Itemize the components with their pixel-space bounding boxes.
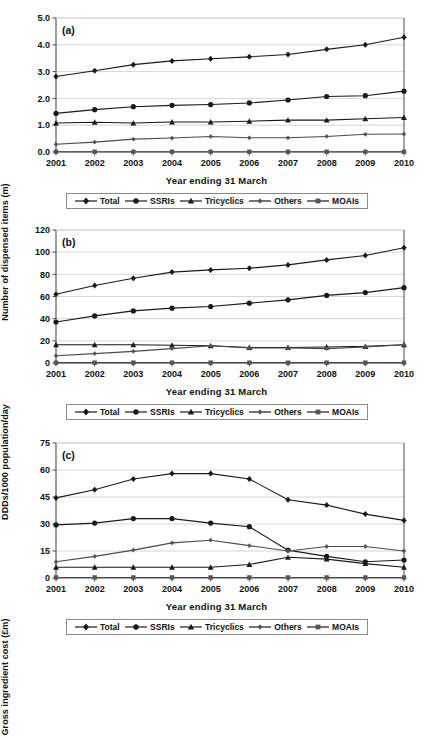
svg-text:20: 20 [40,336,50,346]
legend-item-ssris[interactable]: SSRIs [125,196,175,206]
x-axis-title-c: Year ending 31 March [0,601,433,612]
svg-text:120: 120 [35,225,50,235]
svg-text:2007: 2007 [278,369,298,379]
svg-text:2003: 2003 [123,369,143,379]
svg-text:40: 40 [40,314,50,324]
legend-label-total: Total [100,407,120,417]
x-axis-title-b: Year ending 31 March [0,386,433,397]
circle-icon [125,196,147,206]
small-diamond-icon [249,407,271,417]
svg-text:1.0: 1.0 [37,120,50,130]
y-axis-label-c: Gross ingredient cost (£m) [0,597,10,740]
legend-item-moais[interactable]: MOAIs [307,622,359,632]
svg-text:2009: 2009 [355,369,375,379]
svg-text:4.0: 4.0 [37,40,50,50]
legend-item-others[interactable]: Others [249,196,301,206]
legend-label-others: Others [274,407,301,417]
svg-text:2002: 2002 [85,158,105,168]
small-diamond-icon [249,196,271,206]
legend-item-ssris[interactable]: SSRIs [125,622,175,632]
svg-text:2001: 2001 [46,369,66,379]
svg-text:45: 45 [40,492,50,502]
square-icon [307,196,329,206]
legend-item-total[interactable]: Total [75,196,120,206]
svg-text:2003: 2003 [123,158,143,168]
panel-a: Number of dispensed items (m) 0.01.02.03… [0,0,433,214]
legend-c: Total SSRIs Tricyclics Others MOAIs [66,619,368,635]
legend-label-ssris: SSRIs [150,407,175,417]
svg-text:2010: 2010 [394,584,414,594]
svg-text:0: 0 [45,358,50,368]
legend-a: Total SSRIs Tricyclics Others MOAIs [66,193,368,209]
svg-text:2010: 2010 [394,369,414,379]
legend-label-others: Others [274,196,301,206]
svg-text:2001: 2001 [46,584,66,594]
svg-text:0.0: 0.0 [37,147,50,157]
square-icon [307,622,329,632]
svg-text:2004: 2004 [162,158,182,168]
legend-label-moais: MOAIs [332,622,359,632]
legend-item-others[interactable]: Others [249,622,301,632]
legend-b: Total SSRIs Tricyclics Others MOAIs [66,404,368,420]
circle-icon [125,622,147,632]
legend-label-others: Others [274,622,301,632]
svg-text:100: 100 [35,247,50,257]
diamond-icon [75,622,97,632]
svg-text:2004: 2004 [162,369,182,379]
triangle-icon [180,622,202,632]
svg-text:2009: 2009 [355,158,375,168]
svg-text:2007: 2007 [278,158,298,168]
svg-text:0: 0 [45,573,50,583]
svg-text:2006: 2006 [239,158,259,168]
svg-text:2006: 2006 [239,369,259,379]
svg-text:2008: 2008 [317,158,337,168]
svg-text:2002: 2002 [85,584,105,594]
panel-tag-c: (c) [62,449,75,461]
svg-text:2001: 2001 [46,158,66,168]
svg-text:15: 15 [40,546,50,556]
svg-text:2008: 2008 [317,369,337,379]
legend-label-total: Total [100,196,120,206]
svg-text:2.0: 2.0 [37,94,50,104]
triangle-icon [180,407,202,417]
legend-item-total[interactable]: Total [75,622,120,632]
legend-item-total[interactable]: Total [75,407,120,417]
circle-icon [125,407,147,417]
svg-text:60: 60 [40,292,50,302]
legend-label-ssris: SSRIs [150,622,175,632]
panel-tag-a: (a) [62,24,75,36]
triangle-icon [180,196,202,206]
svg-text:75: 75 [40,438,50,448]
svg-text:2007: 2007 [278,584,298,594]
legend-item-tricyclics[interactable]: Tricyclics [180,622,244,632]
legend-label-total: Total [100,622,120,632]
panel-b: DDDs/1000 population/day 020406080100120… [0,214,433,425]
diamond-icon [75,407,97,417]
legend-label-tricyclics: Tricyclics [205,622,244,632]
panel-c: Gross ingredient cost (£m) 0153045607520… [0,425,433,650]
svg-text:2010: 2010 [394,158,414,168]
diamond-icon [75,196,97,206]
svg-text:3.0: 3.0 [37,67,50,77]
legend-item-ssris[interactable]: SSRIs [125,407,175,417]
svg-text:2004: 2004 [162,584,182,594]
svg-text:2006: 2006 [239,584,259,594]
legend-item-moais[interactable]: MOAIs [307,196,359,206]
small-diamond-icon [249,622,271,632]
legend-label-tricyclics: Tricyclics [205,196,244,206]
x-axis-title-a: Year ending 31 March [0,175,433,186]
svg-text:5.0: 5.0 [37,13,50,23]
svg-text:60: 60 [40,465,50,475]
svg-text:80: 80 [40,270,50,280]
legend-item-moais[interactable]: MOAIs [307,407,359,417]
legend-item-tricyclics[interactable]: Tricyclics [180,407,244,417]
svg-text:2005: 2005 [201,369,221,379]
svg-text:2003: 2003 [123,584,143,594]
legend-item-others[interactable]: Others [249,407,301,417]
legend-item-tricyclics[interactable]: Tricyclics [180,196,244,206]
svg-text:2009: 2009 [355,584,375,594]
legend-label-moais: MOAIs [332,407,359,417]
svg-text:2005: 2005 [201,158,221,168]
legend-label-ssris: SSRIs [150,196,175,206]
